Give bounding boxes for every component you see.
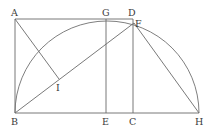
segment-AI [15,19,59,79]
segment-BF [15,23,134,113]
segment-FH [134,23,199,113]
label-C: C [129,116,136,127]
label-F: F [135,18,142,29]
geometric-diagram: A G D F I B E C H [0,0,217,135]
label-D: D [128,7,136,18]
label-B: B [11,116,18,127]
label-A: A [10,7,18,18]
label-G: G [102,7,110,18]
label-E: E [102,116,109,127]
label-I: I [56,82,60,93]
semicircle-arc-BH [15,21,199,113]
label-H: H [195,116,203,127]
